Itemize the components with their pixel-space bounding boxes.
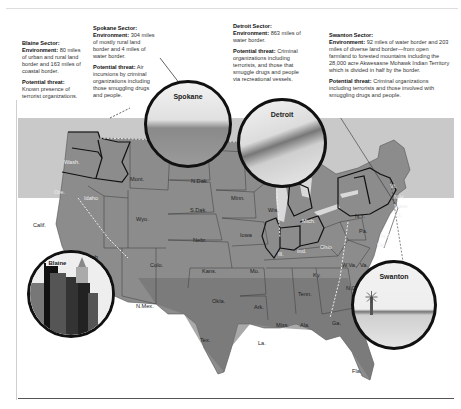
spokane-sector-note: Spokane Sector: Environment: 304 miles o… bbox=[93, 25, 155, 103]
swanton-threat-label: Potential threat: bbox=[329, 78, 372, 84]
state-label-del: Del. bbox=[377, 242, 387, 248]
state-label-n-dak: N.Dak. bbox=[191, 178, 208, 184]
state-label-n-h: N.H. bbox=[394, 194, 405, 200]
state-label-tex: Tex. bbox=[200, 337, 210, 343]
blaine-inset-title: Blaine bbox=[46, 260, 68, 266]
map-bottom-rule bbox=[18, 398, 454, 399]
spokane-title: Spokane Sector: bbox=[93, 25, 137, 31]
state-label-mass: Mass. bbox=[394, 203, 409, 209]
swanton-sector-note: Swanton Sector: Environment: 92 miles of… bbox=[329, 32, 451, 103]
state-label-calif: Calif. bbox=[33, 222, 46, 228]
state-label-nebr: Nebr. bbox=[193, 237, 206, 243]
state-label-n-j: N.J. bbox=[381, 233, 391, 239]
state-label-ct: Ct. bbox=[395, 212, 402, 218]
state-label-kans: Kans. bbox=[202, 268, 216, 274]
spokane-inset: Spokane bbox=[144, 80, 232, 168]
blaine-threat: Known presence of terrorist organization… bbox=[22, 86, 77, 99]
swanton-title: Swanton Sector: bbox=[329, 32, 373, 38]
city-skyline-icon bbox=[30, 253, 112, 335]
state-label-wis: Wis. bbox=[268, 207, 279, 213]
blaine-sector-note: Blaine Sector: Environment: 80 miles of … bbox=[22, 40, 84, 104]
detroit-threat-label: Potential threat: bbox=[233, 48, 276, 54]
blaine-title: Blaine Sector: bbox=[22, 40, 60, 46]
state-label-ore: Ore. bbox=[54, 189, 65, 195]
state-label-ala: Ala. bbox=[300, 322, 310, 328]
frame-left-rule bbox=[16, 100, 17, 400]
spokane-threat-label: Potential threat: bbox=[93, 64, 136, 70]
state-label-ind: Ind. bbox=[297, 248, 306, 254]
state-label-n-y: N.Y. bbox=[355, 213, 365, 219]
blaine-threat-label: Potential threat: bbox=[22, 79, 65, 85]
state-label-fla: Fla. bbox=[352, 368, 361, 374]
state-label-la: La. bbox=[258, 340, 266, 346]
state-label-iowa: Iowa bbox=[240, 232, 252, 238]
state-label-pa: Pa. bbox=[359, 228, 367, 234]
state-label-wyo: Wyo. bbox=[136, 216, 149, 222]
state-label-miss: Miss. bbox=[276, 322, 289, 328]
windmill-tower-icon bbox=[354, 263, 434, 347]
detroit-environment-label: Environment: bbox=[233, 30, 269, 36]
state-label-n-mex: N.Mex. bbox=[136, 303, 154, 309]
detroit-inset: Detroit bbox=[237, 98, 327, 188]
spokane-environment-label: Environment: bbox=[93, 32, 129, 38]
detroit-inset-title: Detroit bbox=[240, 111, 324, 118]
state-label-colo: Colo. bbox=[150, 262, 163, 268]
state-label-mont: Mont. bbox=[130, 176, 144, 182]
state-label-mo: Mo. bbox=[250, 268, 259, 274]
state-label-idaho: Idaho bbox=[84, 195, 98, 201]
state-label-ky: Ky. bbox=[313, 272, 321, 278]
state-label-mich: Mich. bbox=[302, 218, 315, 224]
state-label-wash: Wash. bbox=[64, 159, 80, 165]
blaine-inset: Blaine bbox=[27, 250, 115, 338]
detroit-title: Detroit Sector: bbox=[233, 23, 272, 29]
swanton-environment-label: Environment: bbox=[329, 39, 365, 45]
state-label-s-dak: S.Dak. bbox=[190, 207, 207, 213]
state-label-ark: Ark. bbox=[254, 304, 264, 310]
state-label-ill: Ill. bbox=[278, 251, 284, 257]
blaine-environment-label: Environment: bbox=[22, 47, 58, 53]
swanton-inset: Swanton bbox=[351, 260, 437, 350]
detroit-sector-note: Detroit Sector: Environment: 863 miles o… bbox=[233, 23, 301, 87]
state-label-tenn: Tenn. bbox=[298, 291, 312, 297]
state-label-minn: Minn. bbox=[231, 195, 245, 201]
state-label-okla: Okla. bbox=[212, 298, 225, 304]
state-label-vt: Vt. bbox=[390, 183, 397, 189]
state-label-ohio: Ohio bbox=[320, 244, 332, 250]
state-label-ga: Ga. bbox=[332, 320, 341, 326]
spokane-inset-title: Spokane bbox=[147, 93, 229, 100]
